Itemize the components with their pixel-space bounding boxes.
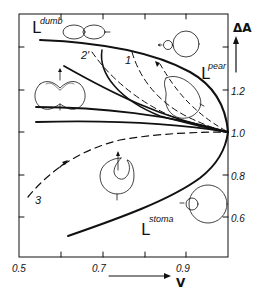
x-tick-label-0-5: 0.5 xyxy=(12,264,26,274)
label-dumb-superscript: dumb xyxy=(40,17,63,26)
x-ticks-bottom xyxy=(61,252,186,257)
curve-branch-c xyxy=(36,121,228,132)
y-tick-label-0-8: 0.8 xyxy=(231,172,245,182)
curve-3-dashed xyxy=(28,132,228,197)
label-stoma-superscript: stoma xyxy=(149,215,174,224)
x-tick-label-0-7: 0.7 xyxy=(92,264,106,274)
y-ticks-left xyxy=(19,47,24,217)
y-tick-label-0-6: 0.6 xyxy=(231,214,245,224)
y-tick-label-1-0: 1.0 xyxy=(231,129,245,139)
phase-diagram-figure xyxy=(0,0,262,302)
bud-sphere-shape-icon xyxy=(158,31,199,57)
curve-l-dumb xyxy=(40,40,228,132)
dumbbell-shape-icon xyxy=(63,25,110,39)
y-axis-arrowhead xyxy=(233,36,239,44)
x-ticks-top xyxy=(61,14,186,19)
x-tick-label-0-9: 0.9 xyxy=(176,264,190,274)
pear-shape-icon xyxy=(164,76,204,118)
stomatocyte-shape-icon xyxy=(100,151,134,200)
x-axis-arrowhead xyxy=(164,273,171,279)
plot-frame xyxy=(19,14,228,257)
sphere-inner-bud-shape-icon xyxy=(180,185,227,223)
arrow-head-pear xyxy=(155,61,160,67)
curve-label-2: 2' xyxy=(81,50,89,61)
y-axis-title: ΔA xyxy=(233,22,252,34)
label-l-stoma: L xyxy=(141,222,150,238)
label-pear-superscript: pear xyxy=(208,62,226,71)
curve-label-3: 3 xyxy=(35,195,41,206)
y-tick-label-1-2: 1.2 xyxy=(231,87,245,97)
curve-label-1: 1 xyxy=(125,55,131,66)
x-axis-title: V xyxy=(176,277,185,289)
